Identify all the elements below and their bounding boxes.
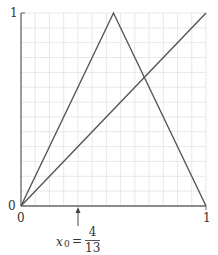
x0-arrow bbox=[76, 207, 81, 226]
x0-subscript: 0 bbox=[64, 240, 70, 249]
y-tick-label-1: 1 bbox=[10, 7, 18, 19]
x0-denominator: 13 bbox=[85, 242, 100, 255]
x-tick-label-0: 0 bbox=[17, 212, 25, 224]
x0-numerator: 4 bbox=[85, 226, 100, 239]
x0-variable: x bbox=[56, 235, 63, 249]
x0-equals: = bbox=[72, 235, 82, 247]
series-identity-y-x bbox=[21, 13, 206, 206]
x0-fraction: 4 13 bbox=[85, 226, 100, 255]
y-tick-label-0: 0 bbox=[8, 200, 16, 212]
series-lines bbox=[21, 13, 206, 206]
x-tick-label-1: 1 bbox=[203, 212, 211, 224]
